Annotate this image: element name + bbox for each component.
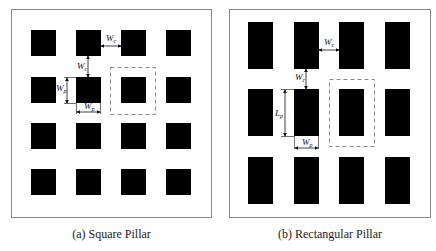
svg-text:Wc: Wc <box>324 37 335 48</box>
dimension-wp-width: Wp <box>295 136 319 149</box>
dimension-lp-length: Lp <box>274 90 294 137</box>
svg-text:Wp: Wp <box>56 83 67 94</box>
svg-text:Wp: Wp <box>302 137 313 148</box>
pillar-diagram: Wc Wc Wp Wp Wc <box>0 0 436 251</box>
dimension-wc-vertical: Wc <box>295 69 306 89</box>
dimension-wc-horizontal: Wc <box>319 37 339 50</box>
square-pillar-grid <box>31 30 191 195</box>
caption-rectangular-pillar: (b) Rectangular Pillar <box>229 227 431 242</box>
svg-text:Wc: Wc <box>77 61 88 72</box>
dimension-wc-horizontal: Wc <box>101 33 121 46</box>
dimension-wc-vertical: Wc <box>77 56 88 77</box>
caption-square-pillar: (a) Square Pillar <box>11 227 212 242</box>
svg-text:Wc: Wc <box>295 72 306 83</box>
svg-text:Wc: Wc <box>106 33 117 44</box>
dimension-wp-height: Wp <box>56 78 76 104</box>
svg-text:Lp: Lp <box>274 108 283 119</box>
